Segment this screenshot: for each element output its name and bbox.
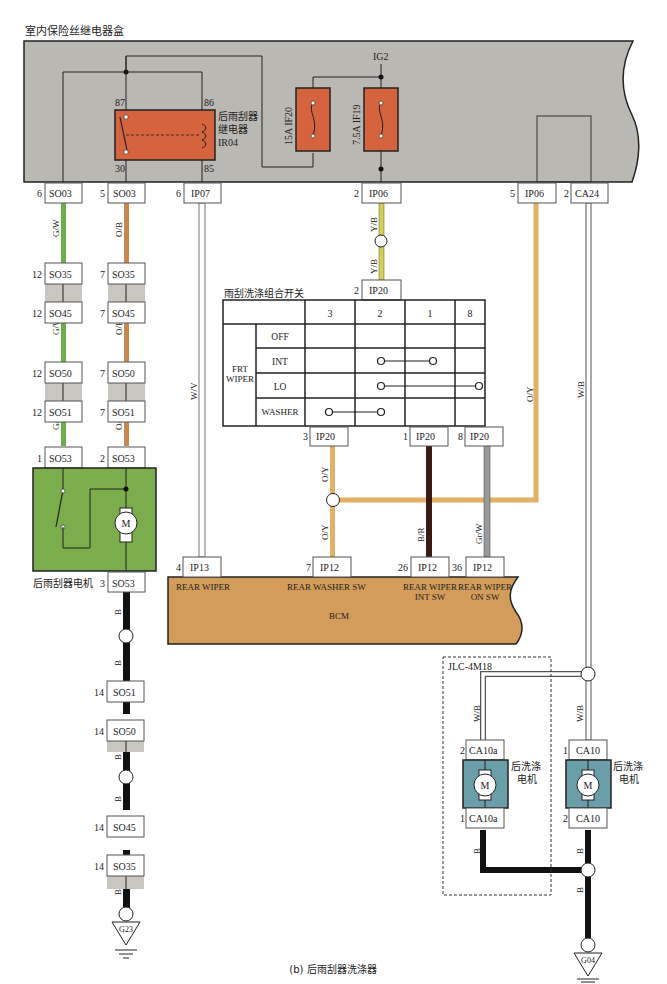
- wire-label-oy-2: O/Y: [320, 524, 330, 540]
- conn-code: IP13: [190, 562, 209, 573]
- wire-label-yb-2: Y/B: [369, 259, 379, 274]
- conn-code: SO35: [49, 269, 72, 280]
- conn-pin: 7: [100, 407, 105, 418]
- conn-code: CA24: [575, 188, 599, 199]
- wire-label-oy-3: O/Y: [525, 386, 535, 402]
- conn-code: SO51: [112, 407, 135, 418]
- conn-code: SO03: [113, 188, 136, 199]
- conn-code: SO50: [112, 368, 135, 379]
- conn-pin: 36: [452, 562, 462, 573]
- conn-pin: 2: [564, 188, 569, 199]
- bcm-label: BCM: [329, 611, 349, 621]
- conn-code: IP12: [418, 562, 437, 573]
- splice-g23: [119, 907, 133, 921]
- wire-label-b-5: B: [113, 889, 123, 895]
- splice-b-1: [119, 629, 133, 643]
- conn-code: IP20: [416, 431, 435, 442]
- bcm-func: REAR WASHER SW: [287, 582, 366, 592]
- washer-right-label1: 后洗涤: [613, 760, 643, 772]
- fuse-box-title: 室内保险丝继电器盒: [25, 24, 124, 38]
- switch-col: 1: [428, 308, 433, 319]
- conn-code: IP12: [320, 562, 339, 573]
- wire-wv: [199, 203, 205, 557]
- conn-pin: 1: [403, 431, 408, 442]
- conn-code: SO50: [113, 726, 136, 737]
- conn-pin: 5: [100, 188, 105, 199]
- fuse-if20-label: 15A IF20: [283, 107, 294, 145]
- bcm-func: REAR WIPER: [458, 582, 512, 592]
- conn-code: SO53: [112, 453, 135, 464]
- ground-g23: G23: [119, 925, 133, 934]
- conn-pin: 2: [354, 285, 359, 296]
- rear-wiper-relay: [115, 110, 215, 160]
- ig2-label: IG2: [373, 51, 389, 62]
- wire-label-ob-1: O/B: [114, 222, 124, 237]
- wire-label-wb-2: W/B: [472, 705, 482, 722]
- conn-pin: 2: [100, 453, 105, 464]
- switch-title: 雨刮洗涤组合开关: [224, 287, 304, 299]
- conn-code: CA10a: [469, 813, 498, 824]
- conn-pin: 12: [32, 308, 42, 319]
- motor-symbol: M: [584, 780, 593, 791]
- conn-code: SO45: [112, 308, 135, 319]
- conn-pin: 7: [100, 368, 105, 379]
- switch-contacts: [326, 358, 483, 416]
- wire-label-b-2: B: [113, 660, 123, 666]
- conn-pin: 14: [94, 822, 104, 833]
- conn-pin: 12: [32, 368, 42, 379]
- conn-code: SO53: [49, 453, 72, 464]
- motor-symbol: M: [122, 518, 131, 529]
- conn-pin: 7: [100, 269, 105, 280]
- figure-caption: (b) 后雨刮器洗涤器: [289, 963, 376, 975]
- conn-pin: 2: [354, 188, 359, 199]
- conn-pin: 5: [510, 188, 515, 199]
- switch-row: INT: [272, 357, 288, 367]
- conn-pin: 1: [563, 745, 568, 756]
- conn-pin: 7: [306, 562, 311, 573]
- conn-code: SO51: [49, 407, 72, 418]
- conn-code: SO35: [112, 269, 135, 280]
- splice-b-washer: [581, 863, 595, 877]
- switch-col: 2: [378, 308, 383, 319]
- conn-pin: 26: [398, 562, 408, 573]
- conn-code: SO45: [49, 308, 72, 319]
- conn-code: SO03: [49, 188, 72, 199]
- splice-oy: [327, 494, 340, 507]
- relay-name-2: 继电器: [218, 123, 248, 135]
- bcm-func: REAR WIPER: [403, 582, 457, 592]
- wire-label-gw-1: G/W: [51, 219, 61, 237]
- conn-pin: 2: [563, 813, 568, 824]
- splice-g04: [581, 938, 595, 952]
- relay-pin-30: 30: [115, 163, 125, 174]
- wire-label-b-w2: B: [575, 848, 585, 854]
- wire-label-b-3: B: [113, 754, 123, 760]
- switch-col: 3: [328, 308, 333, 319]
- conn-pin: 14: [94, 687, 104, 698]
- relay-pin-86: 86: [204, 97, 214, 108]
- conn-code: CA10: [576, 813, 600, 824]
- wire-label-br: B/R: [416, 527, 426, 542]
- conn-pin: 12: [32, 407, 42, 418]
- conn-pin: 14: [94, 726, 104, 737]
- conn-code: IP20: [316, 431, 335, 442]
- conn-code: SO51: [113, 687, 136, 698]
- conn-pin: 1: [460, 813, 465, 824]
- wire-br: [426, 446, 432, 557]
- splice-b-2: [119, 770, 133, 784]
- conn-code: IP20: [369, 285, 388, 296]
- wire-label-wb-1: W/B: [576, 381, 586, 398]
- rear-wiper-motor: [33, 468, 156, 571]
- conn-pin: 1: [37, 453, 42, 464]
- washer-left-label2: 电机: [517, 773, 537, 785]
- conn-pin: 7: [100, 308, 105, 319]
- washer-left-label1: 后洗涤: [511, 760, 541, 772]
- conn-code: CA10a: [469, 745, 498, 756]
- conn-pin: 12: [32, 269, 42, 280]
- conn-pin: 14: [94, 861, 104, 872]
- wire-label-oy-1: O/Y: [320, 466, 330, 482]
- fuse-if19: [364, 88, 398, 151]
- wire-label-yb-1: Y/B: [369, 217, 379, 232]
- wire-label-b-4: B: [113, 796, 123, 802]
- washer-right-label2: 电机: [619, 773, 639, 785]
- fuse-if20: [296, 88, 330, 151]
